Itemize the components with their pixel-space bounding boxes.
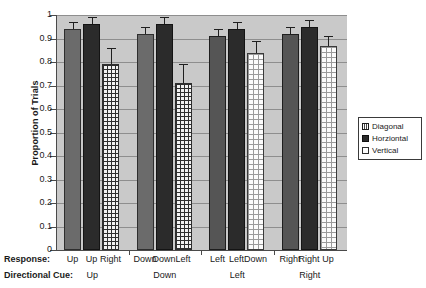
error-bar-cap (252, 41, 261, 42)
directional-cue-label: Left (230, 270, 245, 280)
response-label: Left (229, 254, 244, 264)
directional-cue-row-label: Directional Cue: (4, 270, 73, 280)
response-label: Left (175, 254, 190, 264)
legend-label-horizontal: Horziontal (372, 134, 408, 143)
y-tick-label: 0.1 (6, 221, 52, 231)
error-bar-cap (324, 36, 333, 37)
directional-cue-label: Right (299, 270, 320, 280)
error-bar (164, 17, 165, 24)
legend-item-horizontal[interactable]: Horziontal (362, 133, 418, 144)
group-separator-tick (201, 250, 202, 255)
error-bar-cap (233, 22, 242, 23)
error-bar (145, 27, 146, 34)
vertical-swatch-icon (362, 147, 369, 154)
error-bar (256, 41, 257, 53)
error-bar (183, 64, 184, 83)
bar (320, 46, 337, 250)
bar (301, 27, 318, 250)
response-label: Up (86, 254, 98, 264)
bar (64, 29, 81, 250)
bar (156, 24, 173, 250)
error-bar (309, 20, 310, 27)
response-label: Down (244, 254, 267, 264)
diagonal-swatch-icon (362, 123, 369, 130)
y-tick-label: 0.4 (6, 150, 52, 160)
bar (282, 34, 299, 250)
legend-item-diagonal[interactable]: Diagonal (362, 121, 418, 132)
directional-cue-label: Down (153, 270, 176, 280)
bar-chart-figure: Proportion of Trials 10.90.80.70.60.50.4… (0, 0, 426, 288)
bar (228, 29, 245, 250)
y-tick-label: 0.3 (6, 174, 52, 184)
group-separator-tick (129, 250, 130, 255)
legend: Diagonal Horziontal Vertical (358, 117, 422, 160)
error-bar-cap (88, 17, 97, 18)
response-row-label: Response: (4, 254, 50, 264)
error-bar (92, 17, 93, 24)
error-bar-cap (214, 29, 223, 30)
gridline (57, 15, 347, 16)
group-separator-tick (274, 250, 275, 255)
y-tick-label: 0.8 (6, 56, 52, 66)
error-bar-cap (305, 20, 314, 21)
bar (209, 36, 226, 250)
response-label: Right (279, 254, 300, 264)
response-label: Right (298, 254, 319, 264)
error-bar (328, 36, 329, 45)
error-bar-cap (141, 27, 150, 28)
error-bar-cap (179, 64, 188, 65)
y-tick-label: 0.9 (6, 33, 52, 43)
legend-item-vertical[interactable]: Vertical (362, 145, 418, 156)
y-tick-label: 1 (6, 9, 52, 19)
legend-label-vertical: Vertical (372, 146, 398, 155)
y-tick-label: 0.7 (6, 80, 52, 90)
response-label: Up (67, 254, 79, 264)
response-label: Down (152, 254, 175, 264)
error-bar (73, 22, 74, 29)
horizontal-swatch-icon (362, 135, 369, 142)
bar (175, 83, 192, 250)
response-label: Left (210, 254, 225, 264)
y-tick-label: 0 (6, 244, 52, 254)
directional-cue-label: Up (86, 270, 98, 280)
bar (137, 34, 154, 250)
error-bar-cap (160, 17, 169, 18)
bar (102, 64, 119, 250)
response-label: Right (100, 254, 121, 264)
error-bar (237, 22, 238, 29)
error-bar (111, 48, 112, 64)
error-bar (290, 27, 291, 34)
error-bar (218, 29, 219, 36)
error-bar-cap (107, 48, 116, 49)
y-tick-label: 0.6 (6, 103, 52, 113)
response-label: Up (322, 254, 334, 264)
y-tick-label: 0.5 (6, 127, 52, 137)
bar (83, 24, 100, 250)
y-tick-label: 0.2 (6, 197, 52, 207)
error-bar-cap (69, 22, 78, 23)
bar (247, 53, 264, 250)
legend-label-diagonal: Diagonal (372, 122, 404, 131)
error-bar-cap (286, 27, 295, 28)
